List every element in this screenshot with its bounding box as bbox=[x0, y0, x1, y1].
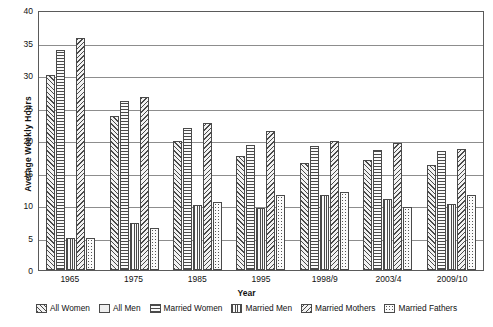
bar bbox=[193, 205, 202, 270]
x-axis-tick-label: 1965 bbox=[38, 274, 102, 284]
legend-label: All Men bbox=[113, 303, 141, 313]
bar bbox=[373, 150, 382, 270]
x-axis-tick-label: 1985 bbox=[165, 274, 229, 284]
legend-item[interactable]: Married Fathers bbox=[384, 303, 457, 313]
legend-swatch-icon bbox=[36, 304, 47, 313]
x-axis-tick-label: 2003/4 bbox=[357, 274, 421, 284]
legend-item[interactable]: Married Mothers bbox=[301, 303, 375, 313]
legend-swatch-icon bbox=[231, 304, 242, 313]
bar bbox=[467, 195, 476, 270]
bar bbox=[120, 101, 129, 270]
bar bbox=[320, 195, 329, 270]
legend-item[interactable]: All Men bbox=[99, 303, 141, 313]
bar bbox=[183, 128, 192, 270]
legend-label: Married Men bbox=[245, 303, 292, 313]
x-axis-tick-labels: 19651975198519951998/92003/42009/10 bbox=[38, 274, 484, 284]
bar-chart: Average Weekly Hours 4035302520151050 19… bbox=[0, 0, 493, 327]
bar-group bbox=[356, 12, 419, 270]
x-axis-tick-label: 1998/9 bbox=[293, 274, 357, 284]
y-axis-tick-label: 30 bbox=[0, 71, 33, 81]
y-axis-tick-label: 20 bbox=[0, 136, 33, 146]
bar bbox=[330, 141, 339, 270]
x-axis-tick-label: 1995 bbox=[229, 274, 293, 284]
bar-group bbox=[166, 12, 229, 270]
chart-legend: All WomenAll MenMarried WomenMarried Men… bbox=[0, 303, 493, 313]
bar bbox=[340, 192, 349, 270]
legend-item[interactable]: All Women bbox=[36, 303, 90, 313]
bar bbox=[76, 38, 85, 270]
bar-group bbox=[293, 12, 356, 270]
bar bbox=[457, 149, 466, 270]
legend-swatch-icon bbox=[301, 304, 312, 313]
bar bbox=[173, 141, 182, 270]
bar bbox=[383, 199, 392, 271]
bar bbox=[246, 145, 255, 270]
bar bbox=[66, 238, 75, 271]
bar-group bbox=[229, 12, 292, 270]
y-axis-tick-label: 15 bbox=[0, 169, 33, 179]
bar bbox=[276, 195, 285, 270]
legend-swatch-icon bbox=[384, 304, 395, 313]
legend-item[interactable]: Married Women bbox=[150, 303, 223, 313]
bar bbox=[403, 207, 412, 270]
bar bbox=[56, 50, 65, 270]
bar bbox=[266, 131, 275, 270]
bar bbox=[86, 238, 95, 270]
bar-groups bbox=[39, 12, 483, 270]
x-axis-title: Year bbox=[0, 288, 493, 298]
bar bbox=[46, 75, 55, 270]
y-axis-tick-label: 40 bbox=[0, 6, 33, 16]
bar bbox=[427, 165, 436, 270]
y-axis-tick-label: 35 bbox=[0, 39, 33, 49]
bar bbox=[447, 204, 456, 270]
bar-group bbox=[102, 12, 165, 270]
y-axis-tick-label: 0 bbox=[0, 266, 33, 276]
bar bbox=[110, 116, 119, 270]
legend-label: All Women bbox=[50, 303, 90, 313]
bar bbox=[213, 202, 222, 270]
legend-swatch-icon bbox=[99, 304, 110, 313]
bar bbox=[140, 97, 149, 270]
bar bbox=[300, 163, 309, 270]
plot-area bbox=[38, 11, 484, 271]
bar bbox=[256, 208, 265, 270]
legend-swatch-icon bbox=[150, 304, 161, 313]
bar bbox=[437, 151, 446, 270]
bar-group bbox=[420, 12, 483, 270]
legend-label: Married Mothers bbox=[315, 303, 375, 313]
y-axis-tick-label: 10 bbox=[0, 201, 33, 211]
legend-label: Married Fathers bbox=[398, 303, 457, 313]
y-axis-tick-label: 25 bbox=[0, 104, 33, 114]
legend-item[interactable]: Married Men bbox=[231, 303, 292, 313]
x-axis-tick-label: 1975 bbox=[102, 274, 166, 284]
bar-group bbox=[39, 12, 102, 270]
bar bbox=[150, 228, 159, 270]
x-axis-tick-label: 2009/10 bbox=[420, 274, 484, 284]
y-axis-tick-label: 5 bbox=[0, 234, 33, 244]
bar bbox=[130, 223, 139, 270]
bar bbox=[236, 156, 245, 270]
bar bbox=[363, 160, 372, 271]
bar bbox=[203, 123, 212, 270]
bar bbox=[310, 146, 319, 270]
legend-label: Married Women bbox=[164, 303, 223, 313]
bar bbox=[393, 143, 402, 270]
